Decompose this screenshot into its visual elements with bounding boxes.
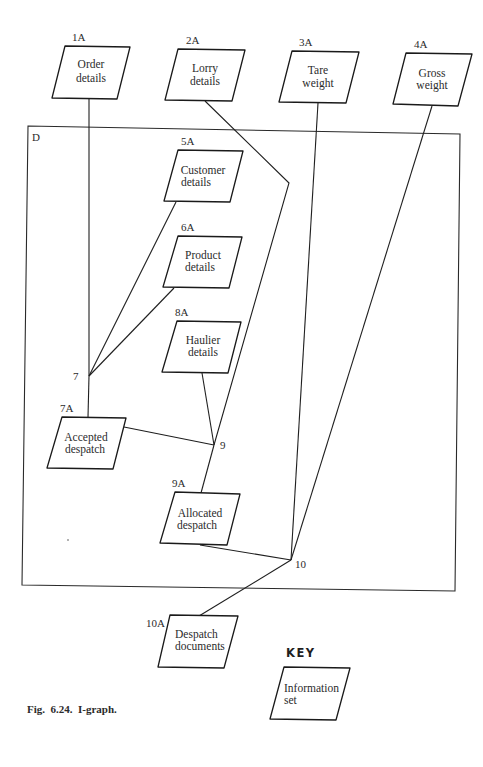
info-set-label-line2: documents [175,640,225,652]
info-set-label-line2: weight [302,77,334,90]
junction-label-7: 7 [73,370,79,382]
key-sample-line1: Information [284,682,339,694]
info-set-id: 3A [299,36,313,48]
info-set-label-line1: Gross [419,67,446,79]
edge-4a-10 [291,106,432,560]
edge-3a-10 [291,103,318,560]
edge-5a-7 [89,202,176,376]
info-set-id: 8A [175,306,189,318]
info-set-3a: 3A Tare weight [279,36,359,103]
info-set-label-line1: Allocated [178,507,223,519]
info-set-label-line2: details [190,75,221,87]
info-set-label-line1: Tare [308,64,328,76]
edge-9a-10 [200,545,291,560]
info-set-1a: 1A Order details [52,31,130,99]
info-set-label-line1: Lorry [192,62,218,75]
scan-speck [67,539,69,541]
figure-caption: Fig. 6.24. I-graph. [27,703,117,715]
key-sample-line2: set [284,694,298,706]
info-set-8a: 8A Haulier details [162,306,241,373]
info-set-label-line2: details [76,72,107,84]
info-set-5a: 5A Customer details [164,135,243,202]
edge-7-7a [88,376,89,417]
info-set-id: 10A [146,617,165,629]
info-set-2a: 2A Lorry details [165,34,245,101]
info-set-id: 4A [414,38,428,50]
info-set-label-line1: Product [185,249,222,261]
info-set-id: 2A [186,34,200,46]
info-set-7a: 7A Accepted despatch [47,402,126,469]
edge-9-9a [201,445,214,493]
edge-8a-9 [202,373,214,445]
info-set-label-line1: Order [78,58,105,70]
info-set-label-line2: details [181,176,212,188]
info-set-id: 6A [181,221,195,233]
junction-label-10: 10 [295,558,307,570]
info-set-label-line2: weight [416,79,448,92]
key-title: KEY [286,646,316,660]
info-set-6a: 6A Product details [163,221,242,288]
info-set-9a: 9A Allocated despatch [160,477,240,545]
info-set-id: 9A [172,477,186,489]
edges [88,99,432,616]
info-set-label-line2: details [185,261,216,273]
info-set-label-line2: despatch [65,443,105,456]
junction-label-9: 9 [220,439,226,451]
info-set-4a: 4A Gross weight [393,38,472,106]
info-set-id: 5A [181,135,195,147]
info-set-label-line2: details [188,346,219,358]
info-set-10a: 10A Despatch documents [146,615,238,668]
system-boundary-d: D [22,126,460,591]
info-set-label-line2: despatch [177,519,217,532]
info-set-id: 7A [60,402,74,414]
edge-7a-9 [124,427,214,445]
legend-key: KEY Information set [270,646,350,720]
info-set-id: 1A [72,31,86,43]
info-set-label-line1: Customer [181,164,226,176]
edge-6a-7 [89,288,174,376]
info-set-label-line1: Haulier [186,334,221,346]
boundary-label: D [32,131,40,143]
